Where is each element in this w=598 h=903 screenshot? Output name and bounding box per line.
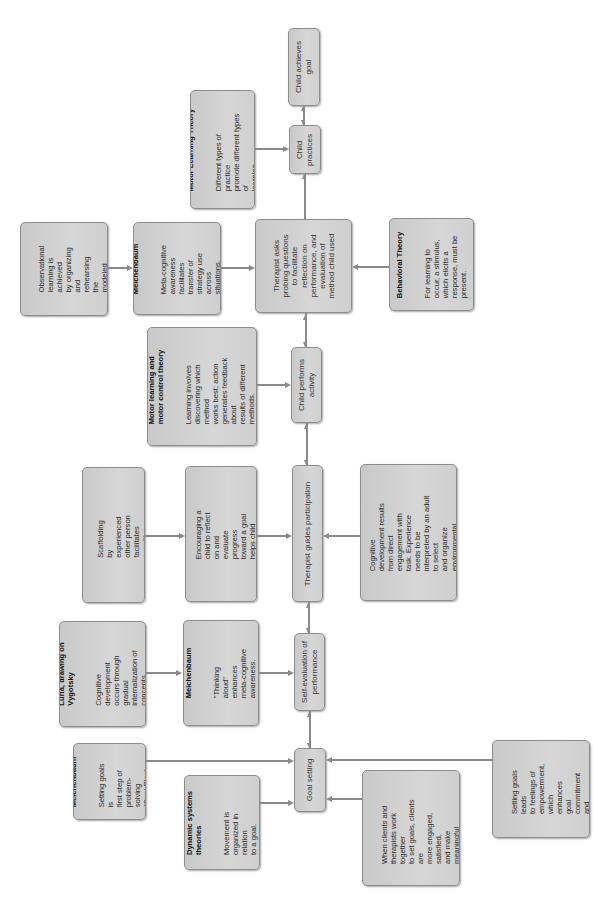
arrowhead-icon	[288, 800, 294, 806]
step-label: Child achieves goal	[294, 41, 313, 93]
connector-bandura-to-goal-setting	[332, 759, 492, 761]
arrowhead-icon	[352, 264, 358, 270]
theory-title: Meichenbaum	[185, 648, 194, 699]
arrowhead-icon	[283, 146, 289, 152]
theory-dynamic-systems: Dynamic systems theories Movement is org…	[184, 775, 260, 870]
arrowhead-icon	[249, 265, 255, 271]
arrowhead-icon	[301, 106, 305, 111]
connector-motor-control-to-performs	[257, 384, 285, 386]
theory-description: When clients and therapists work togethe…	[379, 792, 460, 864]
arrowhead-icon	[306, 628, 310, 633]
step-self-evaluation: Self-evaluation of performance	[294, 633, 325, 711]
theory-description: Different types of practice promote diff…	[213, 108, 255, 191]
theory-vygotsky: Vygotsky Scaffolding by experienced othe…	[82, 467, 145, 603]
theory-meichenbaum-thinking-aloud: Meichenbaum "Thinking aloud" enhances me…	[183, 620, 259, 726]
connector-feuerstein-to-guides	[329, 535, 360, 537]
connector-behavioral-to-asks	[358, 266, 389, 268]
arrowhead-icon	[288, 670, 294, 676]
theory-bandura-observational: Bandura Observational learning is achiev…	[20, 222, 108, 316]
theory-title: Behavioral Theory	[395, 231, 404, 297]
theory-description: Setting goals leads to feelings of empow…	[509, 764, 590, 814]
connector-dynamic-to-goal-setting	[260, 802, 288, 804]
connector-client-to-goal-setting	[332, 798, 362, 800]
theory-description: Encouraging a child to reflect on and ev…	[194, 509, 257, 560]
arrowhead-icon	[326, 757, 332, 763]
theory-title: Motor Learning Theory	[190, 108, 195, 191]
theory-description: Cognitive development occurs through gra…	[93, 642, 146, 705]
theory-description: Cognitive development results from direc…	[368, 494, 457, 570]
arrowhead-icon	[307, 712, 311, 717]
theory-description: Setting goals is first step of problem-s…	[96, 756, 146, 807]
arrowhead-icon	[286, 533, 292, 539]
arrowhead-icon	[304, 424, 308, 429]
theory-description: For learning to occur, a stimulus, which…	[422, 231, 468, 297]
step-child-practices: Child practices	[289, 125, 321, 174]
theory-description: Meta-cognitive awareness facilitates tra…	[159, 243, 221, 294]
theory-motor-learning-motor-control: Motor learning and motor control theory …	[147, 327, 257, 446]
step-label: Self-evaluation of performance	[300, 641, 319, 703]
theory-title: Motor learning and motor control theory	[147, 349, 165, 424]
theory-description: "Thinking aloud" enhances meta-cognitive…	[212, 648, 258, 699]
theory-title: Meichenbaum	[133, 243, 141, 294]
arrowhead-icon	[288, 758, 294, 764]
arrowhead-icon	[323, 533, 329, 539]
theory-description: Observational learning is achieved by or…	[37, 246, 108, 293]
theory-bandura-empowerment: Bandura Setting goals leads to feelings …	[492, 740, 590, 838]
theory-meichenbaum-setting-goals: Meichenbaum Setting goals is first step …	[73, 743, 146, 820]
connector-thinking-aloud-to-self-eval	[259, 672, 288, 674]
theory-description: Scaffolding by experienced other person …	[95, 512, 145, 558]
arrowhead-icon	[307, 743, 311, 748]
connector-meichenbaum-to-guides	[257, 535, 286, 537]
step-label: Therapist asks probing questions to faci…	[271, 234, 335, 299]
theory-description: Learning involves discovering which meth…	[184, 349, 257, 424]
theory-title: Luria, drawing on Vygotsky	[59, 642, 75, 705]
connector-meichenbaum-goals-to-goal-setting	[146, 760, 288, 762]
arrowhead-icon	[304, 460, 308, 465]
connector-motor-learning-to-practices	[255, 148, 284, 150]
theory-description: Movement is organized in relation to a g…	[222, 790, 258, 854]
theory-feuerstein-haywood: Feuerstein, Haywood Cognitive developmen…	[360, 464, 457, 601]
arrowhead-icon	[179, 533, 185, 539]
theory-title: Meichenbaum	[73, 756, 78, 807]
connector-bandura-to-meichenbaum	[108, 267, 128, 269]
connector-meichenbaum-to-asks	[221, 267, 249, 269]
theory-motor-learning-theory: Motor Learning Theory Different types of…	[190, 90, 255, 209]
arrowhead-icon	[127, 265, 133, 271]
connector-guides-to-performs	[306, 423, 308, 465]
arrowhead-icon	[303, 315, 307, 320]
theory-behavioral-theory: Behavioral Theory For learning to occur,…	[389, 218, 474, 311]
arrowhead-icon	[326, 796, 332, 802]
arrowhead-icon	[302, 174, 306, 179]
connector-luria-to-thinking-aloud	[146, 672, 177, 674]
theory-title: Dynamic systems theories	[186, 790, 204, 854]
arrowhead-icon	[306, 603, 310, 608]
arrowhead-icon	[285, 382, 291, 388]
connector-vygotsky-to-meichenbaum	[145, 535, 180, 537]
step-label: Goal setting	[305, 759, 315, 802]
step-child-performs-activity: Child performs activity	[291, 347, 322, 423]
step-therapist-asks: Therapist asks probing questions to faci…	[255, 219, 352, 313]
step-label: Child practices	[295, 133, 314, 165]
theory-meichenbaum-meta-cognitive: Meichenbaum Meta-cognitive awareness fac…	[133, 222, 221, 315]
step-label: Child performs activity	[297, 359, 316, 411]
step-therapist-guides-participation: Therapist guides participation	[292, 465, 323, 602]
connector-asks-to-practices	[304, 174, 306, 219]
theory-meichenbaum-encouraging: Meichenbaum Encouraging a child to refle…	[185, 466, 257, 602]
arrowhead-icon	[303, 342, 307, 347]
arrowhead-icon	[301, 120, 305, 125]
step-label: Therapist guides participation	[303, 481, 313, 586]
theory-luria: Luria, drawing on Vygotsky Cognitive dev…	[59, 621, 146, 727]
step-child-achieves-goal: Child achieves goal	[288, 28, 320, 106]
step-goal-setting: Goal setting	[294, 748, 326, 812]
arrowhead-icon	[176, 670, 182, 676]
theory-client-centeredness: Client centeredness When clients and the…	[362, 770, 460, 886]
